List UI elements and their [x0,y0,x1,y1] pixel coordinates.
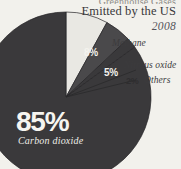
chart-title-year: 2008 [36,19,176,33]
slice-label-methane-name: Methane [112,38,146,48]
slice-label-others-name: Others [144,75,170,85]
slice-label-methane-percent: 8% [84,47,98,58]
slice-label-carbon-dioxide-name: Carbon dioxide [18,135,83,147]
slice-label-nitrous-oxide-percent: 5% [104,67,118,78]
slice-label-nitrous-oxide-name: Nitrous oxide [124,60,176,70]
slice-label-carbon-dioxide-percent: 85% [16,108,83,135]
pie-chart-figure: Greenhouse Gases Emitted by the US 2008 … [0,0,181,169]
slice-label-others-percent: 2% [126,76,139,86]
chart-title-line: Emitted by the US [36,4,176,19]
chart-title-block: Greenhouse Gases Emitted by the US 2008 [36,0,176,33]
slice-callout-carbon-dioxide: 85% Carbon dioxide [16,108,83,147]
